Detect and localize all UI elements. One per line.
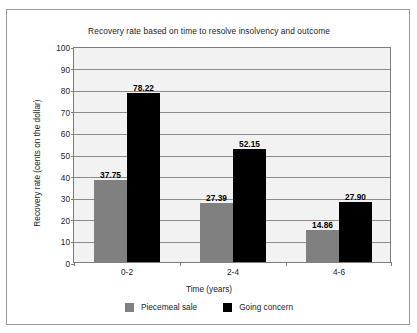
y-tick-mark xyxy=(71,69,74,70)
y-tick-mark xyxy=(71,242,74,243)
bar-value-label: 14.86 xyxy=(312,220,333,230)
x-tick-mark xyxy=(286,262,287,266)
gridline xyxy=(74,112,390,113)
y-tick-mark xyxy=(71,48,74,49)
bar-2-4-piecemeal-sale[interactable] xyxy=(200,203,233,262)
y-tick-label: 100 xyxy=(56,43,70,53)
chart-title: Recovery rate based on time to resolve i… xyxy=(7,26,411,36)
x-tick-mark xyxy=(74,262,75,266)
legend-label: Piecemeal sale xyxy=(141,302,197,312)
bar-4-6-going-concern[interactable] xyxy=(339,202,372,262)
legend-swatch-icon xyxy=(125,303,134,312)
y-tick-label: 70 xyxy=(61,108,70,118)
bar-value-label: 78.22 xyxy=(133,83,154,93)
plot-area: 010203040506070809010037.7578.220-227.39… xyxy=(73,47,391,263)
y-tick-mark xyxy=(71,112,74,113)
y-axis-title: Recovery rate (cents on the dollar) xyxy=(32,53,42,273)
y-tick-label: 10 xyxy=(61,237,70,247)
legend-item-piecemeal-sale[interactable]: Piecemeal sale xyxy=(125,302,197,312)
y-tick-mark xyxy=(71,134,74,135)
gridline xyxy=(74,69,390,70)
chart-figure-frame: Recovery rate based on time to resolve i… xyxy=(6,9,410,325)
y-tick-label: 80 xyxy=(61,86,70,96)
bar-0-2-piecemeal-sale[interactable] xyxy=(94,180,127,262)
bar-4-6-piecemeal-sale[interactable] xyxy=(306,230,339,262)
gridline xyxy=(74,156,390,157)
x-tick-label-2-4: 2-4 xyxy=(227,267,239,277)
bar-2-4-going-concern[interactable] xyxy=(233,149,266,262)
legend-label: Going concern xyxy=(239,302,293,312)
gridline xyxy=(74,177,390,178)
gridline xyxy=(74,134,390,135)
x-tick-label-4-6: 4-6 xyxy=(333,267,345,277)
y-tick-label: 30 xyxy=(61,194,70,204)
y-tick-mark xyxy=(71,177,74,178)
chart-legend: Piecemeal saleGoing concern xyxy=(7,302,411,312)
y-tick-mark xyxy=(71,220,74,221)
bar-value-label: 27.90 xyxy=(345,192,366,202)
y-tick-label: 60 xyxy=(61,129,70,139)
bar-value-label: 37.75 xyxy=(100,170,121,180)
y-tick-mark xyxy=(71,199,74,200)
legend-item-going-concern[interactable]: Going concern xyxy=(223,302,293,312)
bar-value-label: 52.15 xyxy=(239,139,260,149)
y-tick-mark xyxy=(71,156,74,157)
x-tick-mark xyxy=(391,262,392,266)
y-tick-label: 40 xyxy=(61,173,70,183)
x-tick-label-0-2: 0-2 xyxy=(121,267,133,277)
bar-0-2-going-concern[interactable] xyxy=(127,93,160,262)
bar-value-label: 27.39 xyxy=(206,193,227,203)
y-tick-label: 90 xyxy=(61,65,70,75)
legend-swatch-icon xyxy=(223,303,232,312)
y-tick-mark xyxy=(71,91,74,92)
y-tick-label: 20 xyxy=(61,216,70,226)
x-tick-mark xyxy=(180,262,181,266)
x-axis-title: Time (years) xyxy=(7,284,411,294)
y-tick-label: 50 xyxy=(61,151,70,161)
gridline xyxy=(74,91,390,92)
y-tick-label: 0 xyxy=(65,259,70,269)
